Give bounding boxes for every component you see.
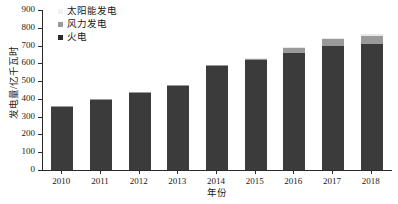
y-tick-mark [38,81,42,82]
y-tick-label: 900 [22,4,36,15]
x-tick-mark [177,170,178,174]
y-tick-mark [38,134,42,135]
x-tick-label: 2015 [233,176,277,187]
x-axis-title: 年份 [42,188,392,199]
bar-stack [206,65,228,170]
y-tick-label: 300 [22,111,36,122]
x-tick-label: 2017 [310,176,354,187]
x-tick-mark [293,170,294,174]
x-tick-label: 2016 [271,176,315,187]
y-axis-title: 发电量/亿千瓦时 [10,23,20,143]
bar-segment [283,48,305,52]
legend-item-thermal: 火电 [58,31,117,44]
bar-chart: 发电量/亿千瓦时 0100200300400500600700800900 20… [0,0,398,204]
legend-swatch-solar-icon [58,9,63,14]
bar-segment [245,59,267,60]
legend-label-thermal: 火电 [67,31,87,44]
bar-stack [322,38,344,170]
bar-segment [322,39,344,46]
x-tick-mark [255,170,256,174]
bar-segment [245,60,267,170]
bar-segment [283,53,305,170]
bar-segment [283,47,305,48]
bar-segment [167,85,189,86]
bar-segment [245,58,267,59]
bar-segment [206,65,228,66]
x-tick-label: 2012 [117,176,161,187]
x-tick-mark [216,170,217,174]
bar-segment [90,99,112,100]
bar-stack [283,48,305,170]
bar-segment [206,66,228,170]
x-tick-mark [100,170,101,174]
bar-segment [51,107,73,170]
y-tick-label: 500 [22,75,36,86]
x-tick-mark [332,170,333,174]
y-tick-mark [38,99,42,100]
bar-stack [51,107,73,170]
y-tick-label: 800 [22,22,36,33]
bar-segment [90,100,112,170]
y-tick-mark [38,28,42,29]
bar-stack [167,85,189,170]
bar-segment [129,92,151,93]
y-tick-mark [38,63,42,64]
x-tick-mark [61,170,62,174]
bar-segment [322,38,344,39]
y-tick-mark [38,10,42,11]
y-tick-label: 100 [22,146,36,157]
y-tick-label: 200 [22,128,36,139]
bar-stack [245,59,267,170]
y-tick-mark [38,152,42,153]
y-tick-label: 700 [22,40,36,51]
y-tick-mark [38,46,42,47]
bar-segment [361,36,383,44]
y-tick-mark [38,117,42,118]
legend-label-wind: 风力发电 [67,18,107,31]
x-axis-line [42,170,392,171]
x-tick-label: 2018 [349,176,393,187]
legend-swatch-thermal-icon [58,35,63,40]
y-tick-label: 600 [22,57,36,68]
legend-item-wind: 风力发电 [58,18,117,31]
bar-segment [51,106,73,107]
x-tick-label: 2010 [39,176,83,187]
y-tick-label: 400 [22,93,36,104]
x-tick-label: 2014 [194,176,238,187]
chart-legend: 太阳能发电 风力发电 火电 [58,5,117,44]
legend-label-solar: 太阳能发电 [67,5,117,18]
x-tick-label: 2013 [155,176,199,187]
legend-item-solar: 太阳能发电 [58,5,117,18]
bar-segment [167,86,189,170]
bar-stack [361,34,383,170]
bar-segment [322,46,344,170]
bar-segment [361,44,383,170]
legend-swatch-wind-icon [58,22,63,27]
x-tick-mark [139,170,140,174]
bar-segment [361,34,383,35]
x-tick-label: 2011 [78,176,122,187]
bar-stack [90,99,112,170]
bar-stack [129,92,151,170]
bar-segment [129,92,151,170]
x-tick-mark [371,170,372,174]
y-tick-label: 0 [31,164,36,175]
